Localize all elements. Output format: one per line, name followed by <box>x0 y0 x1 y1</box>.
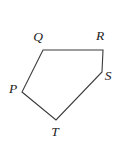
pentagon-outline <box>22 50 103 120</box>
vertex-label-S: S <box>105 69 112 83</box>
pentagon-diagram <box>0 0 118 145</box>
vertex-label-Q: Q <box>33 30 43 44</box>
vertex-label-P: P <box>9 82 17 96</box>
figure-canvas: P Q R S T <box>0 0 118 145</box>
vertex-label-R: R <box>96 29 104 43</box>
vertex-label-T: T <box>51 125 59 139</box>
